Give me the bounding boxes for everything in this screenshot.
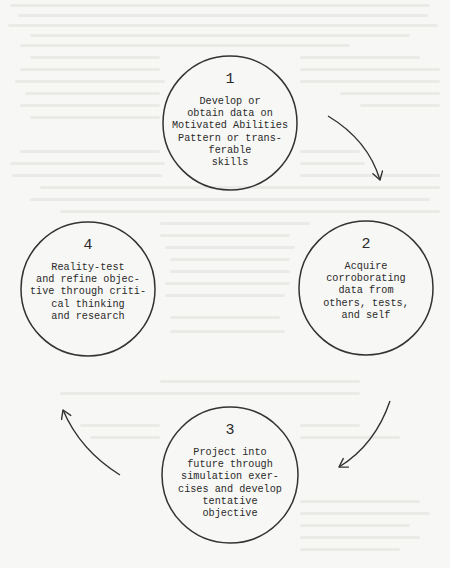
node-2-number: 2 xyxy=(361,237,370,253)
node-1-label: Develop or obtain data on Motivated Abil… xyxy=(172,96,288,169)
arrow-1-to-2 xyxy=(328,116,380,180)
node-4: 4 Reality-test and refine objec- tive th… xyxy=(21,222,155,356)
node-3: 3 Project into future through simulation… xyxy=(162,407,298,543)
node-2: 2 Acquire corroborating data from others… xyxy=(299,221,433,355)
arrow-3-to-4 xyxy=(63,410,120,475)
node-4-number: 4 xyxy=(83,238,92,254)
node-1: 1 Develop or obtain data on Motivated Ab… xyxy=(163,56,297,190)
arrow-2-to-3 xyxy=(339,401,390,467)
node-2-label: Acquire corroborating data from others, … xyxy=(323,261,409,322)
node-3-label: Project into future through simulation e… xyxy=(178,447,282,520)
node-1-number: 1 xyxy=(225,72,234,88)
node-3-number: 3 xyxy=(225,423,234,439)
node-4-label: Reality-test and refine objec- tive thro… xyxy=(30,262,146,323)
